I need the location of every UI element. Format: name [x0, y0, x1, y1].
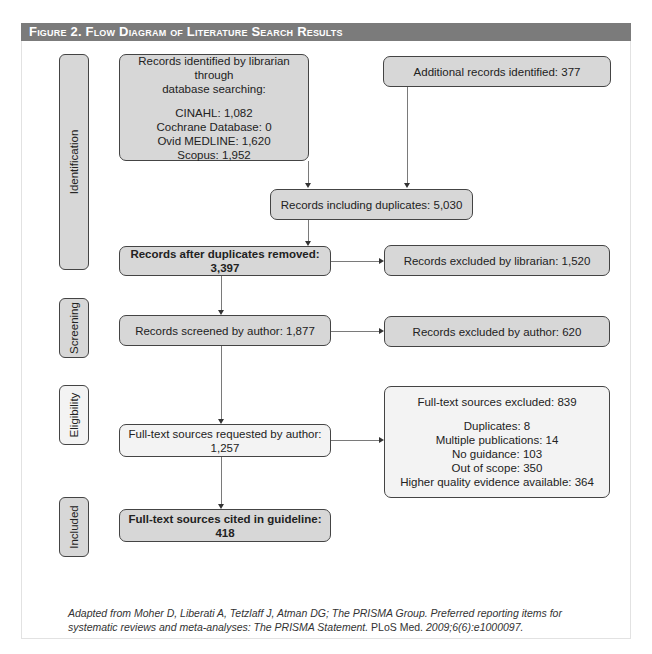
- fulltext-requested-label: Full-text sources requested by author: 1…: [120, 427, 330, 455]
- excluded-librarian-box: Records excluded by librarian: 1,520: [384, 245, 610, 276]
- caption-citation: 2009;6(6):e1000097.: [423, 621, 523, 633]
- records-identified-heading-2: database searching:: [162, 82, 266, 96]
- source-cinahl: CINAHL: 1,082: [175, 106, 252, 120]
- fulltext-excluded-box: Full-text sources excluded: 839 Duplicat…: [384, 386, 610, 498]
- fulltext-cited-label: Full-text sources cited in guideline: 41…: [120, 512, 330, 540]
- screened-author-box: Records screened by author: 1,877: [119, 315, 331, 346]
- stage-included: Included: [59, 497, 89, 557]
- fulltext-cited-box: Full-text sources cited in guideline: 41…: [119, 509, 331, 542]
- excluded-author-label: Records excluded by author: 620: [413, 325, 582, 339]
- additional-records-box: Additional records identified: 377: [383, 56, 611, 87]
- arrow-down-icon: [305, 183, 311, 188]
- reason-multiple-publications: Multiple publications: 14: [436, 433, 559, 447]
- stage-eligibility: Eligibility: [59, 385, 89, 445]
- connector-line: [331, 261, 379, 262]
- connector-line: [308, 161, 309, 184]
- figure-caption: Adapted from Moher D, Liberati A, Tetzla…: [68, 606, 608, 634]
- fulltext-requested-box: Full-text sources requested by author: 1…: [119, 424, 331, 457]
- connector-line: [221, 346, 222, 420]
- reason-no-guidance: No guidance: 103: [452, 447, 542, 461]
- stage-identification: Identification: [59, 54, 89, 270]
- figure-header: Figure 2. Flow Diagram of Literature Sea…: [21, 23, 631, 41]
- connector-line: [221, 457, 222, 505]
- fulltext-excluded-heading: Full-text sources excluded: 839: [417, 395, 576, 409]
- after-duplicates-label: Records after duplicates removed: 3,397: [120, 247, 330, 275]
- additional-records-label: Additional records identified: 377: [414, 65, 581, 79]
- connector-line: [331, 331, 379, 332]
- including-duplicates-label: Records including duplicates: 5,030: [281, 198, 463, 212]
- reason-duplicates: Duplicates: 8: [464, 419, 530, 433]
- reason-out-of-scope: Out of scope: 350: [452, 461, 543, 475]
- figure-title: Figure 2. Flow Diagram of Literature Sea…: [29, 24, 343, 39]
- stage-included-label: Included: [68, 505, 80, 548]
- connector-line: [407, 87, 408, 184]
- connector-line: [331, 440, 379, 441]
- stage-identification-label: Identification: [68, 130, 80, 195]
- connector-line: [308, 220, 309, 242]
- records-identified-heading-1: Records identified by librarian through: [120, 54, 308, 82]
- stage-eligibility-label: Eligibility: [68, 393, 80, 438]
- screened-author-label: Records screened by author: 1,877: [135, 324, 315, 338]
- stage-screening-label: Screening: [68, 302, 80, 354]
- source-scopus: Scopus: 1,952: [177, 148, 251, 162]
- stage-screening: Screening: [59, 298, 89, 358]
- reason-higher-quality: Higher quality evidence available: 364: [400, 475, 594, 489]
- source-cochrane: Cochrane Database: 0: [156, 120, 271, 134]
- arrow-down-icon: [404, 183, 410, 188]
- source-medline: Ovid MEDLINE: 1,620: [157, 134, 270, 148]
- caption-journal: PLoS Med.: [368, 621, 423, 633]
- excluded-librarian-label: Records excluded by librarian: 1,520: [404, 254, 591, 268]
- connector-line: [221, 276, 222, 311]
- records-identified-box: Records identified by librarian through …: [119, 54, 309, 161]
- including-duplicates-box: Records including duplicates: 5,030: [270, 189, 473, 220]
- after-duplicates-box: Records after duplicates removed: 3,397: [119, 246, 331, 276]
- excluded-author-box: Records excluded by author: 620: [384, 316, 610, 347]
